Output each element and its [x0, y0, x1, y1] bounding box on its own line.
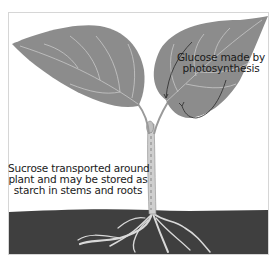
glucose-label: Glucose made by photosynthesis	[176, 52, 266, 74]
sucrose-label: Sucrose transported around plant and may…	[8, 163, 148, 196]
plant-illustration	[0, 0, 278, 264]
glucose-label-line2: photosynthesis	[176, 63, 266, 74]
sucrose-label-line3: starch in stems and roots	[8, 185, 148, 196]
